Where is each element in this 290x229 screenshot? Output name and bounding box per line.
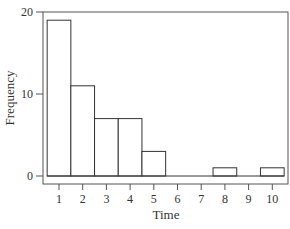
x-tick-label: 4 [127,192,133,206]
y-tick-label: 0 [27,169,33,183]
bar-10 [260,168,284,176]
x-tick-label: 1 [56,192,62,206]
x-tick-label: 2 [80,192,86,206]
x-tick-label: 7 [198,192,204,206]
bar-5 [142,151,166,176]
x-tick-label: 10 [266,192,278,206]
bar-3 [95,119,119,176]
bar-4 [118,119,142,176]
x-tick-label: 8 [222,192,228,206]
y-axis: 01020 [21,5,43,183]
bar-2 [71,86,95,176]
x-axis-label: Time [153,207,180,222]
x-tick-label: 6 [175,192,181,206]
bar-1 [47,20,71,176]
x-tick-label: 5 [151,192,157,206]
y-axis-label: Frequency [2,70,17,125]
bar-8 [213,168,237,176]
bars [47,20,284,176]
y-tick-label: 20 [21,5,33,19]
x-tick-label: 3 [103,192,109,206]
x-tick-label: 9 [246,192,252,206]
y-tick-label: 10 [21,87,33,101]
x-axis: 12345678910 [56,184,278,206]
histogram-chart: 01020 12345678910 Time Frequency [0,0,290,229]
